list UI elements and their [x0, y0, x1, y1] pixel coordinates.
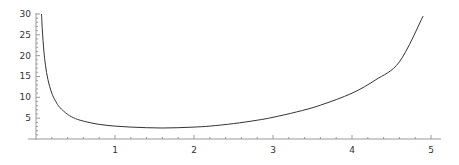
x-tick-label: 2	[191, 145, 197, 155]
x-tick-label: 4	[349, 145, 355, 155]
line-chart: 1234551015202530	[0, 0, 459, 165]
x-tick-label: 3	[270, 145, 276, 155]
y-tick-label: 25	[20, 30, 31, 40]
y-tick-label: 20	[20, 51, 32, 61]
y-tick-label: 15	[20, 71, 31, 81]
axes: 1234551015202530	[20, 9, 441, 155]
y-tick-label: 5	[25, 113, 31, 123]
x-tick-label: 1	[112, 145, 118, 155]
x-tick-label: 5	[428, 145, 434, 155]
data-curve	[42, 14, 424, 128]
y-tick-label: 30	[20, 9, 32, 19]
y-tick-label: 10	[20, 92, 32, 102]
